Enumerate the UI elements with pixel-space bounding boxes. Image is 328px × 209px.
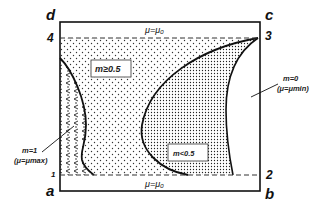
right-callout-line2: (μ=μmin)	[277, 84, 309, 93]
corner-a: a	[46, 182, 54, 199]
point-4: 4	[46, 31, 54, 45]
point-1: 1	[51, 170, 56, 179]
bottom-boundary-label: μ=μ₀	[144, 179, 164, 189]
point-3: 3	[265, 29, 272, 43]
point-2: 2	[265, 168, 273, 182]
corner-b: b	[265, 185, 274, 202]
corner-d: d	[46, 6, 56, 23]
left-callout-line1: m=1	[22, 146, 37, 155]
left-callout-line2: (μ=μmax)	[14, 156, 48, 165]
right-callout-line1: m=0	[283, 74, 299, 83]
phase-diagram: m≥0.5 m<0.5 μ=μ₀ μ=μ₀ d c a b 4 3 1 2 m=…	[0, 0, 328, 209]
region-label-lower: m<0.5	[173, 149, 195, 158]
top-boundary-label: μ=μ₀	[144, 25, 164, 35]
region-label-upper: m≥0.5	[95, 64, 121, 74]
corner-c: c	[265, 6, 274, 23]
